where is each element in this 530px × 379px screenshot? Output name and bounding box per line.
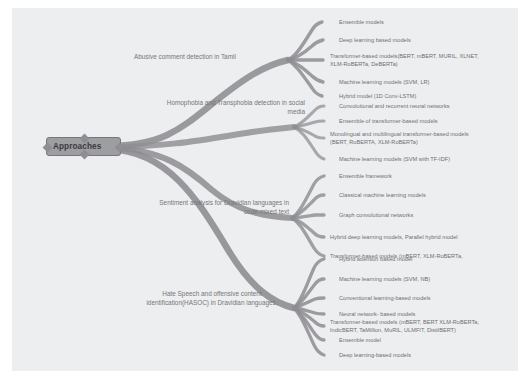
leaf-label-hasoc-5[interactable]: Transformer-based models (mBERT, BERT XL… [330,318,518,334]
root-node-label: Approaches [53,142,101,151]
mindmap-canvas: Approaches Abusive comment detection in … [12,8,518,371]
leaf-label-hasoc-7[interactable]: Deep learning-based models [339,351,518,359]
trunk-hasoc [109,149,294,308]
leaf-label-homophobia-4[interactable]: Machine learning models (SVM with TF-IDF… [339,155,518,163]
trunk-homophobia [109,127,294,147]
leaf-label-homophobia-3[interactable]: Monolingual and multilingual transformer… [330,130,518,146]
leaf-label-hasoc-1[interactable]: Hybrid attention based model [339,255,518,263]
leaf-label-sentiment-4[interactable]: Hybrid deep learning models, Parallel hy… [330,233,518,241]
branch-label-hasoc[interactable]: Hate Speech and offensive content identi… [112,289,312,308]
leaf-label-hasoc-4[interactable]: Neural network- based models [339,310,518,318]
leaf-label-hasoc-2[interactable]: Machine learning models (SVM, NB) [339,275,518,283]
leaf-label-sentiment-3[interactable]: Graph convolutional networks [339,211,518,219]
leaf-label-abusive-1[interactable]: Ensemble models [339,18,518,26]
leaf-label-abusive-5[interactable]: Hybrid model (1D Conv-LSTM) [339,92,518,100]
leaf-label-homophobia-2[interactable]: Ensemble of transformer-based models [339,117,518,125]
leaf-label-abusive-4[interactable]: Machine learning models (SVM, LR) [339,78,518,86]
branch-label-homophobia[interactable]: Homophobia and Transphobia detection in … [70,98,305,117]
branch-label-abusive[interactable]: Abusive comment detection in Tamil [134,52,304,61]
diagram-stage: Approaches Abusive comment detection in … [0,0,530,379]
leaf-label-homophobia-1[interactable]: Convolutional and recurrent neural netwo… [339,102,518,110]
branch-label-sentiment[interactable]: Sentiment analysis for Dravidian languag… [74,198,289,217]
leaf-label-sentiment-2[interactable]: Classical machine learning models [339,191,518,199]
leaf-label-hasoc-6[interactable]: Ensemble model [339,336,518,344]
leaf-label-sentiment-1[interactable]: Ensemble framework [339,172,518,180]
leaf-label-hasoc-3[interactable]: Conventional learning-based models [339,294,518,302]
leaf-label-abusive-2[interactable]: Deep learning based models [339,36,518,44]
leaf-label-abusive-3[interactable]: Transformer-based models(BERT, mBERT, MU… [330,52,518,68]
root-node-approaches[interactable]: Approaches [46,137,121,156]
